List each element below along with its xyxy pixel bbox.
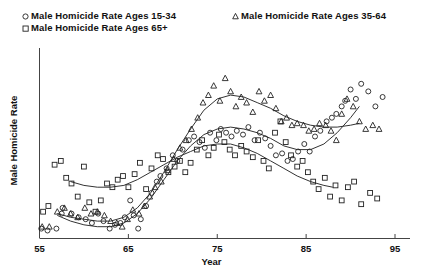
data-point-square — [115, 177, 120, 182]
data-point-square — [322, 175, 327, 180]
data-point-circle — [313, 134, 318, 139]
data-point-square — [183, 170, 188, 175]
data-point-square — [41, 209, 46, 214]
x-tick-label-85: 85 — [291, 243, 321, 254]
data-point-triangle — [294, 120, 300, 125]
data-point-triangle — [339, 111, 345, 116]
data-point-circle — [302, 142, 307, 147]
data-point-triangle — [376, 126, 382, 131]
data-point-triangle — [233, 103, 239, 108]
data-point-square — [105, 181, 110, 186]
data-point-square — [295, 164, 300, 169]
data-point-triangle — [54, 209, 60, 214]
data-point-circle — [234, 128, 239, 133]
data-point-square — [250, 155, 255, 160]
data-point-square — [273, 130, 278, 135]
data-point-circle — [252, 138, 257, 143]
x-tick-label-55: 55 — [25, 243, 55, 254]
data-point-square — [161, 157, 166, 162]
data-point-square — [64, 175, 69, 180]
data-point-circle — [128, 198, 133, 203]
data-point-square — [138, 160, 143, 165]
data-point-square — [261, 159, 266, 164]
data-point-triangle — [350, 103, 356, 108]
data-point-square — [233, 153, 238, 158]
data-point-triangle — [363, 126, 369, 131]
data-point-square — [368, 191, 373, 196]
data-point-square — [188, 160, 193, 165]
fitted-curve — [71, 144, 333, 187]
data-point-circle — [348, 87, 353, 92]
data-point-circle — [366, 89, 371, 94]
data-point-square — [46, 204, 51, 209]
data-point-circle — [285, 158, 290, 163]
data-point-square — [306, 170, 311, 175]
data-point-circle — [318, 128, 323, 133]
data-point-square — [98, 198, 103, 203]
data-point-circle — [334, 111, 339, 116]
data-point-square — [155, 153, 160, 158]
data-point-circle — [246, 125, 251, 130]
data-point-square — [375, 196, 380, 201]
data-point-square — [227, 147, 232, 152]
data-point-square — [359, 202, 364, 207]
data-point-circle — [359, 81, 364, 86]
data-point-square — [149, 166, 154, 171]
data-point-triangle — [273, 105, 279, 110]
x-axis-label: Year — [0, 256, 423, 267]
data-point-square — [339, 198, 344, 203]
data-point-square — [328, 194, 333, 199]
data-point-triangle — [82, 205, 88, 210]
data-point-square — [316, 187, 321, 192]
x-tick-label-65: 65 — [113, 243, 143, 254]
data-point-triangle — [200, 100, 206, 105]
data-point-square — [283, 140, 288, 145]
data-point-triangle — [189, 126, 195, 131]
data-point-triangle — [333, 137, 339, 142]
data-point-square — [121, 174, 126, 179]
data-point-circle — [273, 153, 278, 158]
data-point-square — [52, 162, 57, 167]
data-point-circle — [268, 143, 273, 148]
data-point-square — [352, 179, 357, 184]
data-point-circle — [54, 226, 59, 231]
data-point-circle — [136, 226, 141, 231]
data-point-circle — [89, 221, 94, 226]
data-point-square — [346, 185, 351, 190]
data-point-circle — [329, 115, 334, 120]
data-point-square — [87, 200, 92, 205]
data-point-circle — [214, 138, 219, 143]
data-point-square — [217, 132, 222, 137]
data-point-circle — [353, 96, 358, 101]
data-point-square — [211, 145, 216, 150]
data-point-circle — [229, 134, 234, 139]
data-point-triangle — [206, 92, 212, 97]
data-point-circle — [373, 104, 378, 109]
plot-area — [0, 0, 423, 274]
x-axis-ticks — [40, 234, 396, 238]
data-point-square — [206, 153, 211, 158]
data-point-triangle — [244, 100, 250, 105]
data-point-circle — [138, 217, 143, 222]
data-point-square — [266, 166, 271, 171]
x-tick-label-75: 75 — [202, 243, 232, 254]
data-point-circle — [224, 130, 229, 135]
data-point-triangle — [211, 83, 217, 88]
data-point-triangle — [250, 109, 256, 114]
y-axis-label: Male Homicide Rate — [8, 81, 19, 201]
data-point-circle — [263, 136, 268, 141]
data-point-square — [132, 172, 137, 177]
data-point-triangle — [222, 75, 228, 80]
data-point-square — [144, 187, 149, 192]
data-point-circle — [380, 95, 385, 100]
data-point-square — [82, 164, 87, 169]
data-markers — [39, 75, 385, 233]
fitted-curve — [57, 106, 359, 226]
data-point-circle — [280, 151, 285, 156]
chart-figure: Male Homicide Rate Ages 15-34 Male Homic… — [0, 0, 423, 274]
data-point-square — [300, 159, 305, 164]
data-point-triangle — [289, 122, 295, 127]
data-point-circle — [339, 104, 344, 109]
data-point-square — [126, 185, 131, 190]
data-point-square — [75, 194, 80, 199]
